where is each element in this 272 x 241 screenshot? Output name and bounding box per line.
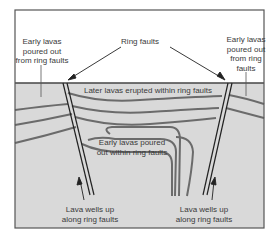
- label-line: Lava wells up: [58, 205, 122, 215]
- label-line: faults: [224, 64, 268, 74]
- ring-fault-diagram: Early lavas poured out from ring faults …: [0, 0, 272, 241]
- label-early-within: Early lavas poured out within ring fault…: [92, 138, 172, 157]
- label-line: along ring faults: [172, 215, 236, 225]
- label-line: poured out: [14, 47, 70, 57]
- label-left-bottom: Lava wells up along ring faults: [58, 205, 122, 224]
- label-line: along ring faults: [58, 215, 122, 225]
- label-line: Early lavas: [14, 37, 70, 47]
- label-right-bottom: Lava wells up along ring faults: [172, 205, 236, 224]
- label-left-top: Early lavas poured out from ring faults: [14, 37, 70, 66]
- label-line: poured out: [224, 45, 268, 55]
- label-line: from ring faults: [14, 56, 70, 66]
- label-line: Early lavas poured: [92, 138, 172, 148]
- label-later-lavas: Later lavas erupted within ring faults: [78, 86, 218, 96]
- label-line: from ring: [224, 54, 268, 64]
- label-line: Lava wells up: [172, 205, 236, 215]
- label-line: out within ring faults: [92, 148, 172, 158]
- label-ring-faults: Ring faults: [110, 37, 170, 47]
- label-line: Early lavas: [224, 35, 268, 45]
- label-right-top: Early lavas poured out from ring faults: [224, 35, 268, 73]
